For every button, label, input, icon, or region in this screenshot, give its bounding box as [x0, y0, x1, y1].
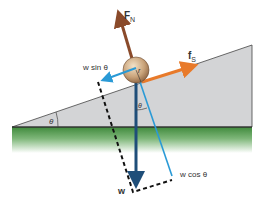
friction-label: fS [188, 50, 196, 63]
ground [12, 127, 252, 153]
incline-free-body-diagram: θ θ r FN fS w sin θ w cos θ w [0, 0, 268, 204]
weight-label: w [117, 186, 126, 196]
incline-angle-label: θ [49, 117, 54, 126]
w-sin-label: w sin θ [82, 63, 108, 72]
vertical-angle-label: θ [138, 102, 142, 109]
normal-force-label: FN [124, 10, 135, 23]
w-cos-label: w cos θ [179, 170, 208, 179]
